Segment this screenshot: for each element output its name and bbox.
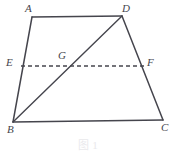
vertex-label-e: E [6, 57, 13, 68]
vertex-label-f: F [147, 57, 154, 68]
side-DC-line [122, 16, 163, 120]
trapezoid-outline [13, 16, 163, 122]
vertex-label-c: C [161, 122, 168, 133]
geometry-figure: A D E G F B C 图 1 [0, 0, 176, 152]
figure-canvas [0, 0, 176, 152]
figure-caption: 图 1 [0, 139, 176, 151]
vertex-label-g: G [58, 50, 66, 61]
side-BC-line [13, 120, 163, 122]
vertex-label-a: A [25, 3, 32, 14]
vertex-label-b: B [7, 124, 14, 135]
side-AD-line [32, 16, 122, 17]
vertex-label-d: D [122, 3, 130, 14]
